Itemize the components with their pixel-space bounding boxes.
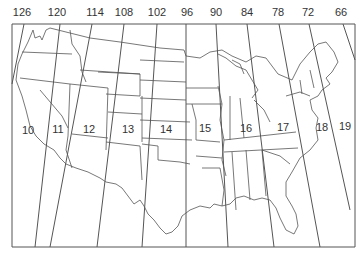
longitude-label: 78 xyxy=(272,6,284,18)
utm-zone-map: 126 120 114 108 102 96 90 84 78 72 66 10… xyxy=(0,0,364,254)
longitude-label: 114 xyxy=(86,6,104,18)
longitude-label: 96 xyxy=(181,6,193,18)
zone-label: 15 xyxy=(199,122,211,134)
longitude-label: 84 xyxy=(241,6,253,18)
longitude-label: 90 xyxy=(210,6,222,18)
longitude-label: 108 xyxy=(115,6,133,18)
zone-label: 14 xyxy=(160,123,172,135)
zone-label: 19 xyxy=(339,120,351,132)
longitude-label: 66 xyxy=(335,6,347,18)
zone-label: 17 xyxy=(277,121,289,133)
longitude-label: 126 xyxy=(13,6,31,18)
zone-boundaries xyxy=(12,24,355,247)
map-frame xyxy=(12,24,355,247)
zone-label: 16 xyxy=(240,122,252,134)
state-borders xyxy=(16,28,338,234)
zone-label: 13 xyxy=(122,123,134,135)
zone-label: 12 xyxy=(83,123,95,135)
longitude-label: 72 xyxy=(302,6,314,18)
zone-label: 10 xyxy=(22,124,34,136)
zone-label: 11 xyxy=(52,123,63,135)
zone-label: 18 xyxy=(316,121,328,133)
longitude-label: 120 xyxy=(48,6,66,18)
longitude-label: 102 xyxy=(148,6,166,18)
